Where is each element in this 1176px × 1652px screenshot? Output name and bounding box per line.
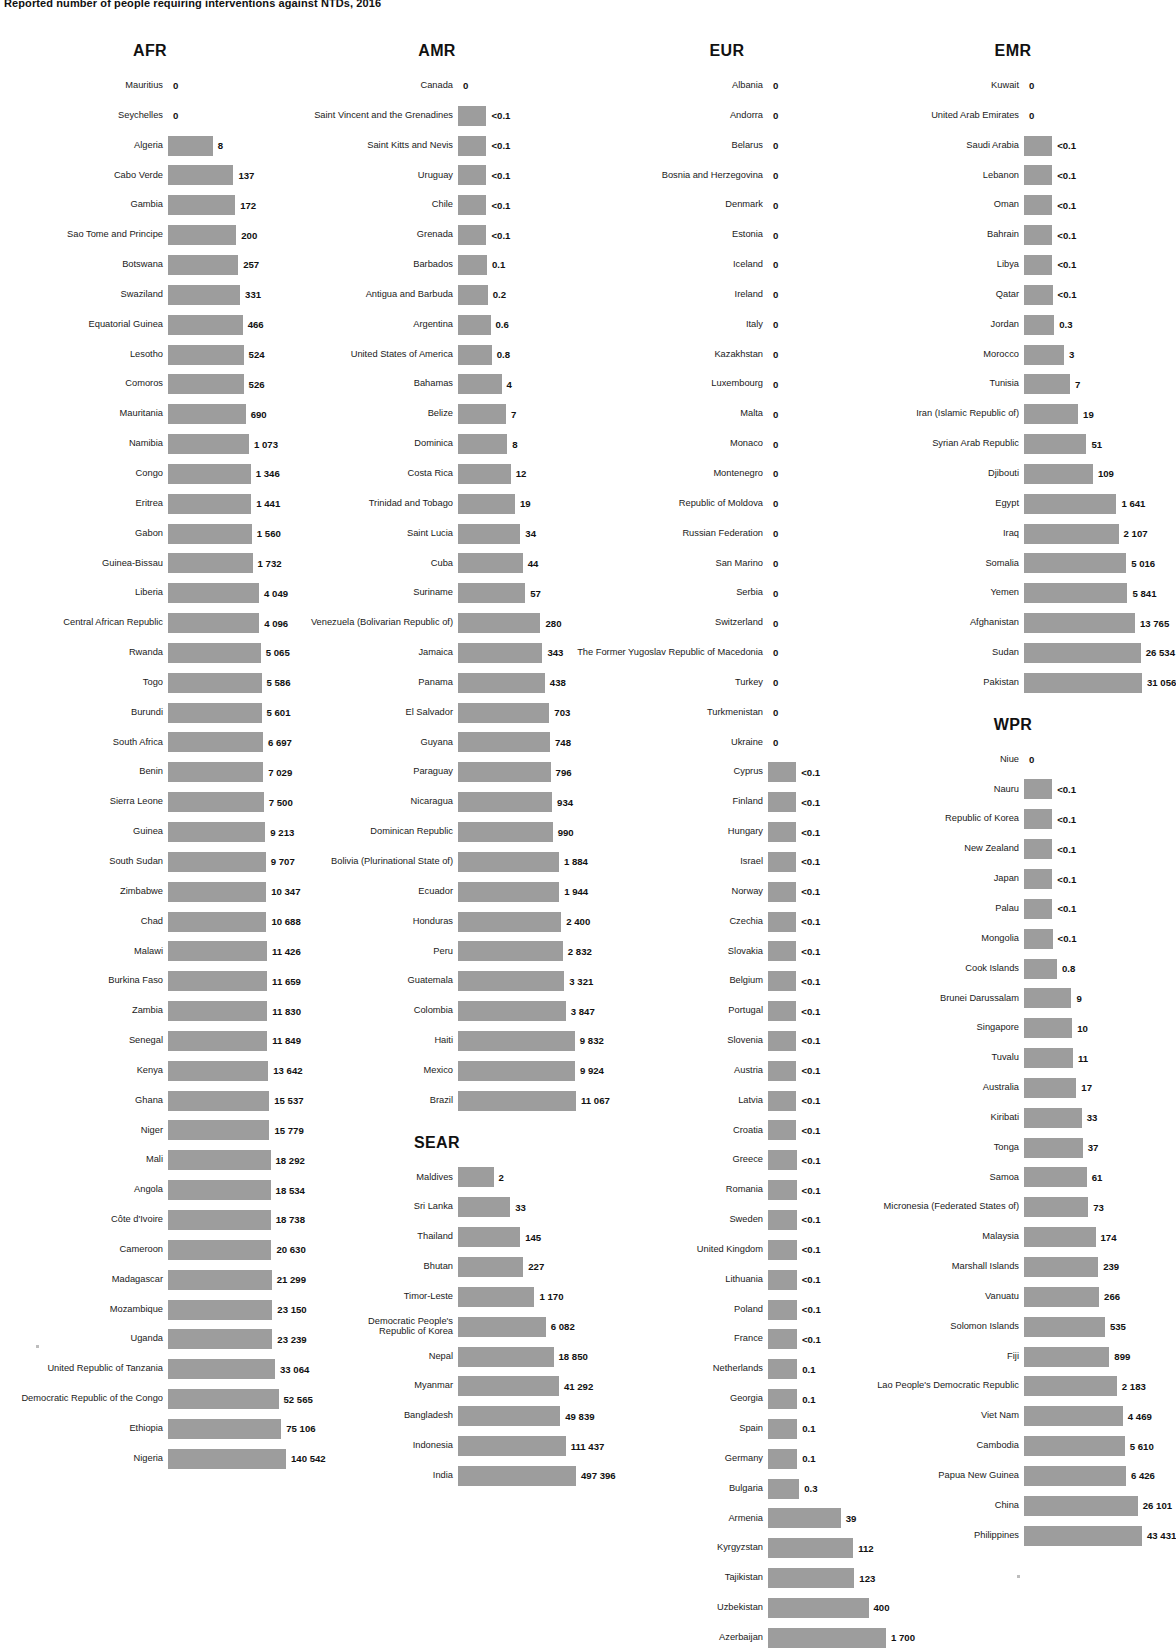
row-bar — [458, 106, 486, 126]
row-bar — [1024, 315, 1054, 335]
row-country-label: Indonesia — [288, 1441, 458, 1451]
row-bar — [768, 1150, 797, 1170]
row-country-label: Bosnia and Herzegovina — [576, 171, 768, 181]
row-bar — [458, 1031, 575, 1051]
row-bar — [768, 912, 796, 932]
row-bar-wrap — [768, 1384, 797, 1414]
row-bar — [768, 1001, 796, 1021]
row-bar — [168, 285, 240, 305]
chart-row: Maldives2 — [288, 1163, 576, 1193]
row-country-label: United States of America — [288, 350, 458, 360]
row-bar — [768, 1449, 797, 1469]
chart-row: India497 396 — [288, 1461, 576, 1491]
row-bar-wrap — [458, 817, 553, 847]
row-value-label: 0 — [768, 110, 778, 121]
row-country-label: Qatar — [864, 290, 1024, 300]
row-bar — [768, 1389, 797, 1409]
row-country-label: Equatorial Guinea — [0, 320, 168, 330]
row-value-label: 703 — [549, 707, 570, 718]
chart-row: United States of America0.8 — [288, 340, 576, 370]
row-value-label: <0.1 — [796, 797, 820, 808]
row-country-label: Uganda — [0, 1334, 168, 1344]
row-bar — [1024, 1376, 1117, 1396]
row-bar — [168, 1210, 271, 1230]
chart-row: Bahrain<0.1 — [864, 220, 1152, 250]
row-value-label: <0.1 — [797, 1274, 821, 1285]
row-country-label: Italy — [576, 320, 768, 330]
row-value-label: 0 — [768, 468, 778, 479]
row-bar — [458, 941, 563, 961]
row-value-label: <0.1 — [797, 1185, 821, 1196]
row-bar-wrap — [1024, 1133, 1083, 1163]
row-value-label: <0.1 — [796, 916, 820, 927]
row-bar-wrap — [768, 1265, 797, 1295]
row-bar — [768, 941, 796, 961]
row-bar — [168, 762, 263, 782]
row-value-label: 796 — [551, 767, 572, 778]
row-country-label: Togo — [0, 678, 168, 688]
chart-row: Republic of Moldova0 — [576, 489, 864, 519]
chart-row: Armenia39 — [576, 1504, 864, 1534]
row-value-label: 19 — [515, 498, 531, 509]
row-bar-wrap — [168, 1235, 271, 1265]
row-bar — [1024, 1257, 1098, 1277]
row-country-label: Burkina Faso — [0, 976, 168, 986]
row-bar-wrap — [1024, 220, 1052, 250]
row-country-label: Morocco — [864, 350, 1024, 360]
row-country-label: Marshall Islands — [864, 1262, 1024, 1272]
row-value-label: <0.1 — [1052, 140, 1076, 151]
row-country-label: Democratic People's Republic of Korea — [288, 1317, 458, 1337]
row-bar-wrap — [458, 280, 488, 310]
row-value-label: 0 — [768, 588, 778, 599]
chart-row: Senegal11 849 — [0, 1026, 288, 1056]
row-country-label: Afghanistan — [864, 618, 1024, 628]
row-bar-wrap — [1024, 578, 1127, 608]
row-country-label: Romania — [576, 1185, 768, 1195]
chart-row: Cyprus<0.1 — [576, 757, 864, 787]
row-bar-wrap — [458, 190, 486, 220]
row-value-label: 0 — [768, 409, 778, 420]
chart-row: Chile<0.1 — [288, 190, 576, 220]
row-country-label: Philippines — [864, 1531, 1024, 1541]
row-value-label: 0 — [768, 259, 778, 270]
row-country-label: Turkmenistan — [576, 708, 768, 718]
row-bar — [168, 1031, 267, 1051]
row-bar-wrap — [1024, 954, 1057, 984]
row-bar — [458, 315, 491, 335]
row-value-label: 9 — [1071, 993, 1081, 1004]
chart-row: Croatia<0.1 — [576, 1116, 864, 1146]
chart-row: Ghana15 537 — [0, 1086, 288, 1116]
chart-row: Brunei Darussalam9 — [864, 983, 1152, 1013]
row-value-label: 0 — [768, 558, 778, 569]
row-bar-wrap — [168, 310, 243, 340]
row-value-label: <0.1 — [1052, 814, 1076, 825]
row-bar-wrap — [1024, 864, 1052, 894]
row-country-label: Sierra Leone — [0, 797, 168, 807]
row-value-label: 1 700 — [886, 1632, 915, 1643]
row-bar-wrap — [1024, 1282, 1099, 1312]
row-bar — [1024, 899, 1052, 919]
row-value-label: 0 — [768, 170, 778, 181]
row-value-label: 5 016 — [1126, 558, 1155, 569]
chart-row: Bolivia (Plurinational State of)1 884 — [288, 847, 576, 877]
row-value-label: 33 — [510, 1202, 526, 1213]
chart-row: Republic of Korea<0.1 — [864, 804, 1152, 834]
chart-columns: AFR Mauritius0Seychelles0Algeria8Cabo Ve… — [0, 42, 1152, 1652]
row-country-label: Zimbabwe — [0, 887, 168, 897]
row-value-label: 0.1 — [797, 1364, 815, 1375]
row-country-label: Suriname — [288, 588, 458, 598]
row-country-label: South Africa — [0, 738, 168, 748]
chart-row: Saint Lucia34 — [288, 519, 576, 549]
row-bar-wrap — [768, 1205, 797, 1235]
chart-row: Guatemala3 321 — [288, 966, 576, 996]
row-value-label: <0.1 — [796, 1006, 820, 1017]
chart-row: Central African Republic4 096 — [0, 608, 288, 638]
row-bar — [1024, 434, 1086, 454]
row-bar-wrap — [458, 1192, 510, 1222]
row-value-label: <0.1 — [797, 1244, 821, 1255]
chart-row: Japan<0.1 — [864, 864, 1152, 894]
row-bar — [458, 404, 506, 424]
row-bar-wrap — [458, 996, 566, 1026]
row-country-label: Egypt — [864, 499, 1024, 509]
row-bar — [768, 1628, 886, 1648]
